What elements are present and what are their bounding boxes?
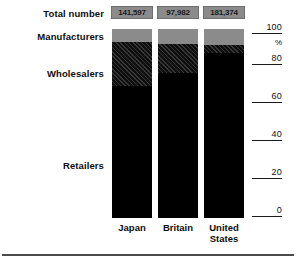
bar-group-united-states: 181,374 [204, 6, 244, 219]
segment-retailers-united-states [204, 53, 244, 218]
segment-retailers-britain [158, 73, 198, 218]
legend-wholesalers: Wholesalers [47, 68, 104, 79]
ytick-label-60: 60 [252, 91, 282, 101]
chart-y-axis: 100 % 80 60 40 20 0 [252, 6, 296, 219]
legend-manufacturers: Manufacturers [37, 31, 104, 42]
ytick-mark-40 [252, 140, 282, 141]
segment-manufacturers-britain [158, 29, 198, 44]
ytick-mark-60 [252, 102, 282, 103]
y-axis-unit-percent: % [252, 38, 282, 48]
ytick-label-100: 100 [252, 22, 282, 32]
xtick-label-united-states-line2: States [210, 233, 239, 244]
bar-group-britain: 97,982 [158, 6, 198, 219]
ytick-mark-100 [252, 33, 282, 34]
xtick-label-japan: Japan [109, 222, 155, 233]
ytick-mark-20 [252, 178, 282, 179]
total-number-label: Total number [43, 8, 104, 19]
chart-plot-area: 141,597 97,982 181,374 [110, 6, 250, 219]
legend-retailers: Retailers [63, 160, 104, 171]
bar-group-japan: 141,597 [112, 6, 152, 219]
total-chip-united-states: 181,374 [203, 6, 245, 19]
chart-x-axis: Japan Britain United States [110, 222, 250, 252]
xtick-label-britain: Britain [155, 222, 201, 233]
segment-retailers-japan [112, 86, 152, 218]
ytick-mark-0 [252, 216, 282, 217]
segment-manufacturers-japan [112, 29, 152, 42]
segment-wholesalers-united-states [204, 45, 244, 53]
ytick-label-0: 0 [252, 205, 282, 215]
total-chip-britain: 97,982 [157, 6, 199, 19]
figure-bottom-divider [2, 254, 294, 256]
chart-left-label-column: Total number Manufacturers Wholesalers R… [0, 0, 108, 225]
ytick-mark-80 [252, 64, 282, 65]
ytick-label-40: 40 [252, 129, 282, 139]
segment-manufacturers-united-states [204, 29, 244, 45]
chart-figure: Total number Manufacturers Wholesalers R… [0, 0, 298, 263]
segment-wholesalers-britain [158, 44, 198, 73]
stacked-bar-united-states [204, 29, 244, 218]
xtick-label-united-states: United States [201, 222, 247, 244]
ytick-label-20: 20 [252, 167, 282, 177]
xtick-label-united-states-line1: United [209, 222, 239, 233]
stacked-bar-japan [112, 29, 152, 218]
total-chip-japan: 141,597 [111, 6, 153, 19]
ytick-label-80: 80 [252, 53, 282, 63]
segment-wholesalers-japan [112, 42, 152, 86]
stacked-bar-britain [158, 29, 198, 218]
